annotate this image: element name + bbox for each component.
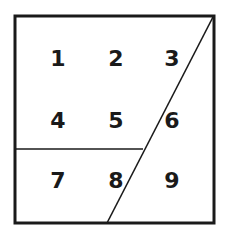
label-4: 4: [50, 108, 65, 133]
label-3: 3: [164, 46, 179, 71]
label-9: 9: [164, 168, 179, 193]
label-6: 6: [164, 108, 179, 133]
label-2: 2: [108, 46, 123, 71]
label-1: 1: [50, 46, 65, 71]
label-5: 5: [108, 108, 123, 133]
grid-diagram: 1 2 3 4 5 6 7 8 9: [0, 0, 230, 239]
label-7: 7: [50, 168, 65, 193]
label-8: 8: [108, 168, 123, 193]
